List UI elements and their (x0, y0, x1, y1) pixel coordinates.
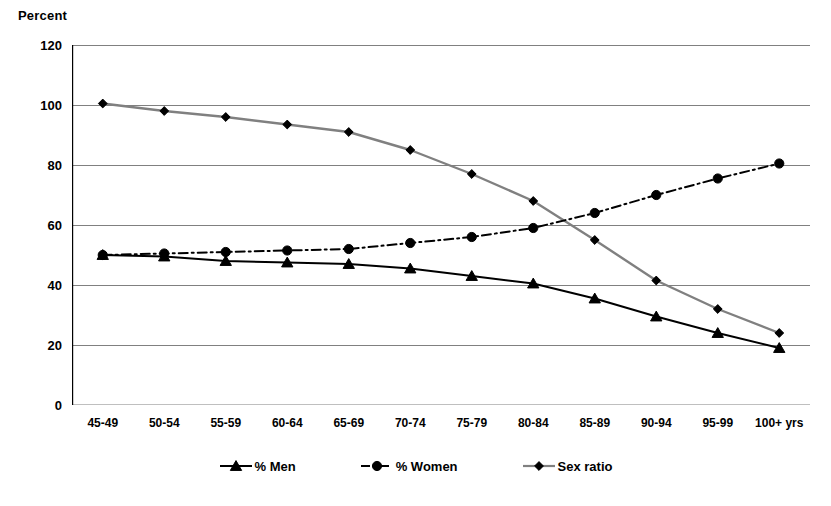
legend-marker-circle-icon (360, 458, 394, 474)
data-point-marker (529, 223, 538, 232)
y-axis-tick-label: 60 (10, 218, 62, 233)
legend-marker-triangle-icon (219, 458, 253, 474)
data-point-marker (160, 107, 169, 116)
data-point-marker (775, 159, 784, 168)
chart-legend: % Men% WomenSex ratio (0, 458, 831, 474)
data-point-marker (467, 232, 476, 241)
legend-label: % Men (255, 459, 296, 474)
x-axis-tick-label: 75-79 (456, 416, 487, 430)
x-axis-tick-label: 85-89 (579, 416, 610, 430)
data-point-marker (221, 247, 230, 256)
data-point-marker (98, 250, 107, 259)
legend-marker (534, 462, 543, 471)
plot-svg (72, 45, 810, 405)
x-axis-tick-label: 90-94 (641, 416, 672, 430)
legend-marker-diamond-icon (522, 458, 556, 474)
series-line (103, 164, 780, 256)
data-point-marker (221, 113, 230, 122)
data-point-marker (98, 99, 107, 108)
data-point-marker (406, 238, 415, 247)
y-axis-tick-label: 0 (10, 398, 62, 413)
data-point-marker (713, 174, 722, 183)
data-point-marker (160, 249, 169, 258)
x-axis-tick-label: 95-99 (702, 416, 733, 430)
legend-label: % Women (396, 459, 458, 474)
x-axis-tick-label: 70-74 (395, 416, 426, 430)
y-axis-tick-label: 20 (10, 338, 62, 353)
y-axis-title: Percent (18, 8, 67, 23)
data-point-marker (283, 246, 292, 255)
legend-label: Sex ratio (558, 459, 613, 474)
x-axis-tick-label: 100+ yrs (755, 416, 803, 430)
data-point-marker (344, 128, 353, 137)
y-axis-tick-label: 100 (10, 98, 62, 113)
series-line (103, 104, 780, 334)
data-point-marker (406, 146, 415, 155)
x-axis-tick-label: 45-49 (87, 416, 118, 430)
legend-marker (372, 461, 381, 470)
y-axis-tick-label: 120 (10, 38, 62, 53)
data-point-marker (283, 120, 292, 129)
series--men (97, 250, 785, 353)
x-axis-tick-label: 80-84 (518, 416, 549, 430)
series--women (98, 159, 784, 260)
y-axis-tick-label: 80 (10, 158, 62, 173)
x-axis-tick-label: 50-54 (149, 416, 180, 430)
legend-item[interactable]: % Men (219, 458, 296, 474)
x-axis-tick-label: 55-59 (210, 416, 241, 430)
data-point-marker (590, 208, 599, 217)
legend-item[interactable]: % Women (360, 458, 458, 474)
x-axis-tick-label: 65-69 (333, 416, 364, 430)
data-point-marker (467, 170, 476, 179)
data-point-marker (775, 329, 784, 338)
data-point-marker (713, 305, 722, 314)
x-axis-tick-label: 60-64 (272, 416, 303, 430)
series-sex-ratio (98, 99, 783, 337)
legend-item[interactable]: Sex ratio (522, 458, 613, 474)
chart-container: Percent 020406080100120 45-4950-5455-596… (0, 0, 831, 506)
plot-area (72, 45, 810, 405)
y-axis-tick-label: 40 (10, 278, 62, 293)
series-line (103, 255, 780, 348)
data-point-marker (652, 190, 661, 199)
data-point-marker (344, 244, 353, 253)
